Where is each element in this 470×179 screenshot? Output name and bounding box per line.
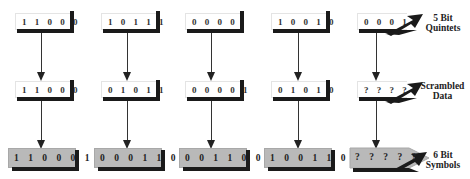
label-line: Symbols [418, 160, 468, 170]
box-shadow [103, 29, 160, 33]
label-line: Data [415, 91, 470, 101]
arrow-line [41, 33, 42, 73]
arrow-line [376, 101, 377, 141]
label-line: 5 Bit [418, 13, 468, 23]
arrow-line [211, 101, 212, 141]
quintet-box: 0 0 0 0 [185, 13, 241, 30]
arrow-line [376, 33, 377, 73]
arrow-line [211, 33, 212, 73]
box-shadow [273, 97, 330, 101]
scrambled-box: 0 1 0 1 1 [101, 81, 157, 98]
arrow-down-icon [372, 72, 380, 81]
label-line: 6 Bit [418, 150, 468, 160]
symbol-box: ? ? ? ? ? [350, 148, 400, 168]
symbol-box: 0 0 1 1 0 0 [179, 148, 247, 168]
row-label-symbols: 6 Bit Symbols [418, 150, 468, 170]
arrow-line [127, 33, 128, 73]
scrambled-box: 0 0 0 0 1 [185, 81, 241, 98]
box-shadow [187, 29, 244, 33]
arrow-down-icon [123, 72, 131, 81]
arrow-line [41, 101, 42, 141]
label-line: Scrambled [415, 81, 470, 91]
box-shadow [98, 167, 165, 171]
arrow-line [298, 101, 299, 141]
box-shadow [17, 97, 74, 101]
arrow-down-icon [294, 72, 302, 81]
arrow-line [127, 101, 128, 141]
label-line: Quintets [418, 23, 468, 33]
row-label-scrambled: Scrambled Data [415, 81, 470, 101]
symbol-box: 1 0 0 1 1 0 [264, 148, 332, 168]
symbol-box: 0 0 0 1 1 0 [94, 148, 162, 168]
box-shadow [187, 97, 244, 101]
quintet-box: 1 1 0 0 0 [15, 13, 71, 30]
row-label-quintets: 5 Bit Quintets [418, 13, 468, 33]
symbol-box: 1 1 0 0 0 1 [8, 148, 76, 168]
box-shadow [183, 167, 250, 171]
scrambled-box: 1 1 0 0 0 [15, 81, 71, 98]
arrow-line [298, 33, 299, 73]
quintet-box: 1 0 1 1 1 [101, 13, 157, 30]
arrow-down-icon [207, 72, 215, 81]
box-shadow [103, 97, 160, 101]
quintet-box: 1 0 0 1 0 [271, 13, 327, 30]
scrambled-box: 0 1 0 1 0 [271, 81, 327, 98]
box-shadow [12, 167, 79, 171]
box-shadow [17, 29, 74, 33]
box-shadow [273, 29, 330, 33]
box-shadow [268, 167, 335, 171]
arrow-down-icon [37, 72, 45, 81]
